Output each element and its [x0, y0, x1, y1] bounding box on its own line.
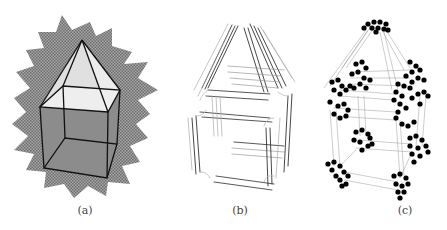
caption-b: (b): [220, 204, 260, 217]
caption-a: (a): [65, 204, 105, 217]
house-wireframe-illustration: [0, 0, 160, 230]
panel-c: (c): [300, 0, 447, 230]
edge-bundle-illustration: [160, 0, 300, 230]
caption-c: (c): [385, 204, 425, 217]
cube-front-face: [40, 107, 108, 178]
panel-a: (a): [0, 0, 160, 230]
edge-bundles: [188, 24, 295, 190]
vertex-dots: [325, 19, 430, 200]
panel-b: (b): [160, 0, 300, 230]
clustered-vertices-illustration: [300, 0, 447, 230]
